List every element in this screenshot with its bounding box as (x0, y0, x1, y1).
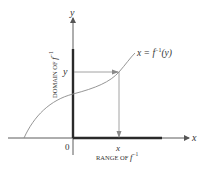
point-x-label: x (115, 143, 120, 153)
domain-label-text: DOMAIN OF (51, 60, 58, 98)
range-label-sup: −1 (132, 151, 138, 157)
curve-label-arg: (y) (161, 48, 172, 59)
domain-label-sup: −1 (48, 51, 54, 57)
inverse-function-curve (24, 53, 135, 138)
domain-label: DOMAIN OF f−1 (48, 51, 59, 98)
inverse-function-diagram: y x 0 y x x = f−1(y) RANGE OF f−1 DOMAIN… (0, 0, 199, 172)
x-axis-label: x (191, 132, 197, 143)
curve-label: x = f−1(y) (136, 47, 172, 59)
curve-label-lhs: x = (136, 48, 152, 58)
y-axis-label: y (69, 7, 75, 18)
origin-label: 0 (65, 142, 70, 152)
range-label-text: RANGE OF (96, 154, 130, 161)
point-y-label: y (62, 66, 68, 77)
